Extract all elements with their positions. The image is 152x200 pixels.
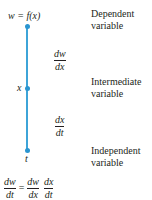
fraction-denominator: dx [28, 189, 37, 200]
node-dot-w [25, 24, 30, 29]
role-label-line1: Dependent [91, 8, 134, 20]
fraction-denominator: dt [56, 127, 64, 138]
edge-derivative-dx-dt: dx dt [55, 114, 64, 138]
role-label-line1: Independent [91, 145, 140, 157]
equation-lhs: dw dt [4, 176, 16, 200]
role-label-intermediate: Intermediate variable [91, 76, 142, 100]
fraction-numerator: dx [55, 114, 64, 125]
fraction-numerator: dx [44, 176, 53, 187]
role-label-line1: Intermediate [91, 76, 142, 88]
role-label-line2: variable [91, 157, 140, 169]
fraction-denominator: dt [6, 189, 14, 200]
node-dot-t [25, 148, 30, 153]
fraction-denominator: dx [55, 61, 64, 72]
node-dot-x [25, 86, 30, 91]
fraction-denominator: dt [45, 189, 53, 200]
role-label-line2: variable [91, 88, 142, 100]
edge-derivative-dw-dx: dw dx [54, 48, 66, 72]
role-label-independent: Independent variable [91, 145, 140, 169]
equation-rhs-1: dw dx [27, 176, 39, 200]
chain-rule-equation: dw dt = dw dx dx dt [4, 176, 53, 200]
equation-rhs-2: dx dt [44, 176, 53, 200]
fraction-numerator: dw [54, 48, 66, 59]
fraction-numerator: dw [4, 176, 16, 187]
node-label-x: x [17, 82, 21, 93]
node-label-w: w = f(x) [8, 10, 40, 21]
fraction-numerator: dw [27, 176, 39, 187]
role-label-line2: variable [91, 20, 134, 32]
role-label-dependent: Dependent variable [91, 8, 134, 32]
node-label-t: t [25, 153, 28, 164]
equals-sign: = [19, 182, 25, 193]
